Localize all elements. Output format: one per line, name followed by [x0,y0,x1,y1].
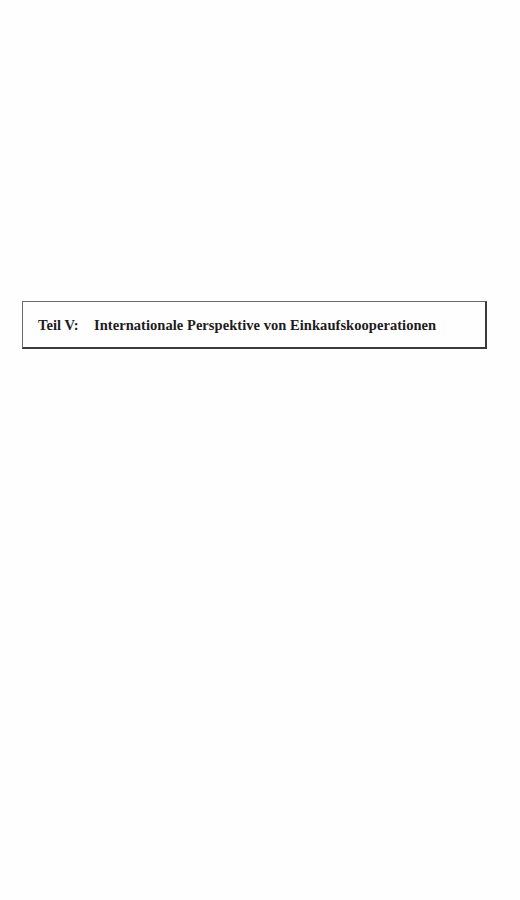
part-title-box: Teil V:Internationale Perspektive von Ei… [22,301,487,349]
part-label: Teil V: [38,316,94,334]
part-heading: Teil V:Internationale Perspektive von Ei… [38,316,436,334]
part-title: Internationale Perspektive von Einkaufsk… [94,317,436,333]
